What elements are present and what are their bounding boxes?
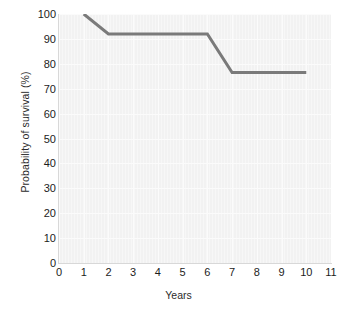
x-tick-label: 6 <box>204 266 210 278</box>
survival-curve-chart: Probability of survival (%) 010203040506… <box>0 0 357 323</box>
x-tick-label: 3 <box>130 266 136 278</box>
x-tick-label: 2 <box>105 266 111 278</box>
x-tick-label: 4 <box>155 266 161 278</box>
x-axis-tick-labels: 01234567891011 <box>0 0 357 323</box>
x-tick-label: 1 <box>81 266 87 278</box>
x-tick-label: 11 <box>325 266 336 278</box>
x-tick-label: 8 <box>254 266 260 278</box>
x-tick-label: 0 <box>56 266 62 278</box>
x-tick-label: 5 <box>180 266 186 278</box>
x-tick-label: 7 <box>229 266 235 278</box>
x-axis-title: Years <box>0 289 357 301</box>
x-tick-label: 10 <box>300 266 312 278</box>
x-axis-title-text: Years <box>165 289 191 301</box>
x-tick-label: 9 <box>278 266 284 278</box>
